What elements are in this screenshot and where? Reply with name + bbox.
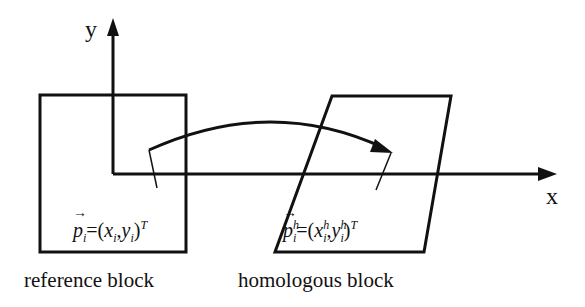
homologous-point-leader <box>376 153 391 190</box>
diagram-geometry <box>0 0 585 307</box>
reference-point-leader <box>149 150 157 188</box>
homologous-block-caption: homologous block <box>238 268 394 293</box>
diagram-canvas: y x pi=(xi,yi)T phi=(xhi,yhi)T reference… <box>0 0 585 307</box>
y-axis-label: y <box>85 16 97 43</box>
x-axis-label: x <box>546 183 558 210</box>
reference-block-caption: reference block <box>24 268 154 293</box>
x-axis-arrowhead-icon <box>538 167 557 181</box>
homologous-point-formula: phi=(xhi,yhi)T <box>283 218 357 246</box>
y-axis-arrowhead-icon <box>107 18 119 36</box>
transform-arrow <box>149 122 384 150</box>
reference-point-formula: pi=(xi,yi)T <box>73 218 147 246</box>
transform-arrowhead-icon <box>370 139 393 153</box>
